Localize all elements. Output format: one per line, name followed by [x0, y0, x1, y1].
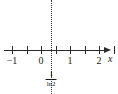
- fraction-numerator: 1: [46, 71, 57, 79]
- tick-label-zero: 0: [39, 56, 44, 66]
- x-axis-tick: [27, 46, 28, 54]
- tick-label-neg-one: −1: [7, 56, 18, 66]
- x-axis-tick: [85, 46, 86, 54]
- fraction-denominator: ln2: [46, 81, 57, 89]
- tick-label-one: 1: [68, 56, 73, 66]
- x-axis-tick: [114, 46, 115, 54]
- x-axis-tick: [56, 46, 57, 54]
- number-line-figure: −1 0 1 2 x 1 ln2: [0, 0, 118, 94]
- x-axis-label: x: [108, 54, 112, 64]
- asymptote-value-label: 1 ln2: [46, 71, 57, 88]
- x-axis-tick: [41, 46, 42, 54]
- x-axis-tick: [70, 46, 71, 54]
- x-axis-tick: [99, 46, 100, 54]
- x-axis-tick: [12, 46, 13, 54]
- tick-label-two: 2: [97, 56, 102, 66]
- x-axis-line: [4, 50, 104, 51]
